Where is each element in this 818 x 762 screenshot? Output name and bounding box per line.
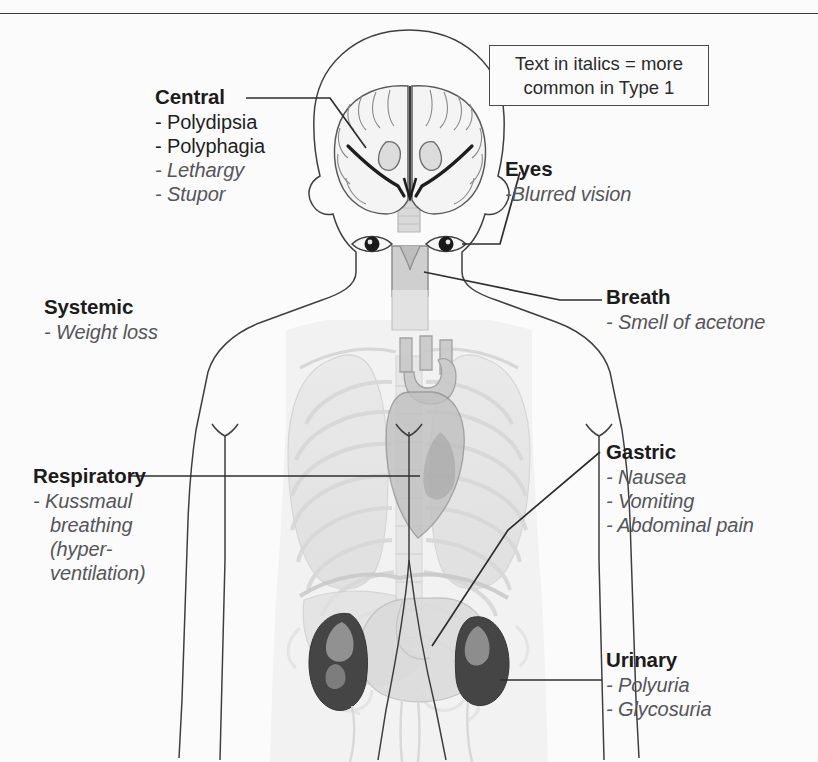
callout-systemic-heading: Systemic — [44, 295, 158, 320]
callout-respiratory-heading: Respiratory — [33, 464, 146, 489]
callout-urinary: Urinary - Polyuria - Glycosuria — [606, 648, 712, 721]
callout-respiratory: Respiratory - Kussmaul breathing (hyper-… — [33, 464, 146, 585]
callout-urinary-item-1: - Glycosuria — [606, 697, 712, 721]
callout-breath-heading: Breath — [606, 285, 765, 310]
brain-coronal-section — [334, 86, 485, 214]
callout-respiratory-item-1: breathing — [33, 513, 146, 537]
callout-gastric-item-0: - Nausea — [606, 465, 754, 489]
callout-eyes-item-0: -Blurred vision — [505, 182, 631, 206]
callout-respiratory-item-2: (hyper- — [33, 537, 146, 561]
left-eye-highlight — [446, 240, 451, 245]
callout-gastric-item-1: - Vomiting — [606, 489, 754, 513]
legend-line-2: common in Type 1 — [524, 77, 675, 98]
internal-organs — [250, 320, 570, 762]
trachea-lower — [392, 290, 428, 330]
callout-central: Central - Polydipsia - Polyphagia - Leth… — [155, 85, 265, 206]
callout-gastric-heading: Gastric — [606, 440, 754, 465]
callout-urinary-heading: Urinary — [606, 648, 712, 673]
callout-breath: Breath - Smell of acetone — [606, 285, 765, 334]
callout-central-item-3: - Stupor — [155, 182, 265, 206]
callout-central-item-0: - Polydipsia — [155, 110, 265, 134]
callout-gastric-item-2: - Abdominal pain — [606, 513, 754, 537]
legend-line-1: Text in italics = more — [515, 53, 683, 74]
callout-central-heading: Central — [155, 85, 265, 110]
callout-systemic: Systemic - Weight loss — [44, 295, 158, 344]
diabetes-symptoms-figure: Central - Polydipsia - Polyphagia - Leth… — [0, 0, 818, 762]
callout-breath-item-0: - Smell of acetone — [606, 310, 765, 334]
left-pupil — [439, 237, 454, 252]
callout-respiratory-item-0: - Kussmaul — [33, 489, 146, 513]
right-pupil — [365, 237, 380, 252]
callout-central-item-1: - Polyphagia — [155, 134, 265, 158]
legend-box: Text in italics = more common in Type 1 — [489, 45, 709, 106]
callout-gastric: Gastric - Nausea - Vomiting - Abdominal … — [606, 440, 754, 537]
right-eye-highlight — [368, 240, 373, 245]
airway — [392, 200, 428, 330]
callout-eyes: Eyes -Blurred vision — [505, 157, 631, 206]
callout-eyes-heading: Eyes — [505, 157, 631, 182]
callout-systemic-item-0: - Weight loss — [44, 320, 158, 344]
callout-respiratory-item-3: ventilation) — [33, 561, 146, 585]
legend-text: Text in italics = more common in Type 1 — [515, 52, 683, 98]
callout-central-item-2: - Lethargy — [155, 158, 265, 182]
callout-urinary-item-0: - Polyuria — [606, 673, 712, 697]
